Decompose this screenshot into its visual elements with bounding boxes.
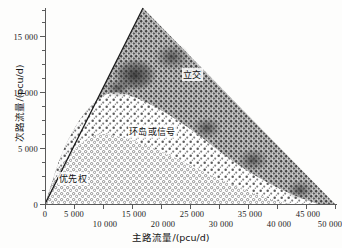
x-tick-label: 20 000	[151, 219, 176, 229]
x-tick-label: 10 000	[93, 219, 118, 229]
density-cluster	[105, 79, 131, 97]
annotation-roundabout-signal: 环岛或信号	[128, 125, 177, 138]
x-tick-label: 50 000	[318, 219, 342, 229]
density-cluster	[237, 148, 269, 172]
x-tick-label: 30 000	[209, 219, 234, 229]
y-axis-title: 次路流量/(pcu/d)	[12, 28, 26, 178]
x-axis-title: 主路流量/(pcu/d)	[0, 230, 342, 244]
x-tick-label: 25 000	[180, 209, 205, 219]
x-tick-label: 40 000	[267, 219, 292, 229]
density-cluster	[192, 117, 222, 139]
annotation-priority: 优先权	[58, 172, 88, 185]
x-tick-label: 45 000	[296, 209, 321, 219]
chart-figure: 0 5 000 10 000 15 000 0 5 000 10 000 15 …	[0, 0, 342, 248]
density-cluster	[154, 43, 190, 71]
x-tick-label: 5 000	[64, 209, 84, 219]
chart-plot-regions	[0, 0, 342, 248]
density-cluster	[286, 180, 314, 200]
x-tick-label: 0	[43, 209, 47, 219]
x-tick-label: 15 000	[122, 209, 147, 219]
y-tick-label: 0	[0, 200, 38, 210]
annotation-grade-separation: 立交	[182, 68, 203, 81]
x-axis-line	[45, 204, 337, 205]
x-tick-label: 35 000	[238, 209, 263, 219]
